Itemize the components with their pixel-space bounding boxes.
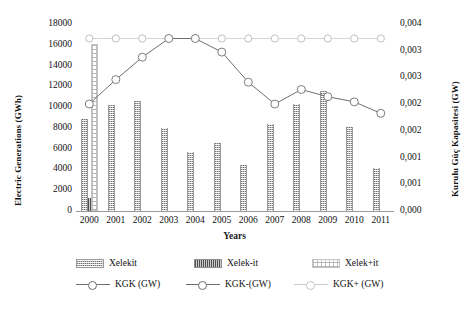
- y-axis-left-tick-label: 16000: [8, 40, 72, 50]
- legend-marker-icon: [198, 281, 207, 290]
- x-axis-tick-label: 2006: [235, 215, 262, 226]
- bar: [108, 105, 115, 211]
- bar: [320, 91, 327, 212]
- x-axis-tick-label: 2001: [103, 215, 130, 226]
- legend-marker-icon: [306, 281, 315, 290]
- y-axis-right-tick-label: 0,000: [400, 206, 421, 216]
- y-axis-right-tick-label: 0,002: [400, 99, 421, 109]
- x-axis-tick-label: 2008: [288, 215, 315, 226]
- x-axis-tick-label: 2004: [182, 215, 209, 226]
- x-axis-tick-label: 2010: [341, 215, 368, 226]
- y-axis-right-tick-label: 0,003: [400, 46, 421, 56]
- x-axis-tick-label: 2003: [156, 215, 183, 226]
- bar: [134, 101, 141, 211]
- legend-row-lines: KGK (GW)KGK-(GW)KGK+ (GW): [76, 278, 406, 296]
- bar: [346, 127, 353, 211]
- bar: [293, 104, 300, 211]
- legend-item-label: KGK+ (GW): [333, 279, 383, 289]
- legend-line-swatch: [76, 278, 110, 290]
- y-axis-left-tick-label: 6000: [8, 144, 72, 154]
- bar: [161, 128, 168, 211]
- x-axis-tick-label: 2009: [315, 215, 342, 226]
- legend-line-swatch: [186, 278, 220, 290]
- y-axis-left-tick-label: 10000: [8, 102, 72, 112]
- legend-item[interactable]: KGK (GW): [76, 278, 160, 290]
- x-axis-tick-label: 2011: [368, 215, 395, 226]
- legend-item[interactable]: Xelekit: [76, 258, 137, 268]
- legend-swatch-sC: [312, 259, 340, 268]
- legend-row-bars: XelekitXelek-itXelek+it: [76, 258, 406, 276]
- legend-item[interactable]: KGK-(GW): [186, 278, 271, 290]
- legend-item-label: Xelek+it: [345, 258, 378, 268]
- x-axis-tick-label: 2002: [129, 215, 156, 226]
- legend-item-label: KGK-(GW): [225, 279, 271, 289]
- legend-item[interactable]: KGK+ (GW): [294, 278, 383, 290]
- legend-item-label: KGK (GW): [115, 279, 160, 289]
- x-axis-tick-label: 2007: [262, 215, 289, 226]
- y-axis-left-tick-label: 2000: [8, 185, 72, 195]
- bar: [240, 165, 247, 211]
- y-axis-right-tick-label: 0,004: [400, 19, 421, 29]
- y-axis-right-tick-label: 0,001: [400, 179, 421, 189]
- legend-line-swatch: [294, 278, 328, 290]
- x-axis-tick-labels: 2000200120022003200420052006200720082009…: [76, 215, 394, 229]
- legend-swatch-sB: [194, 259, 222, 268]
- y-axis-left-tick-label: 8000: [8, 123, 72, 133]
- x-axis-tick-label: 2005: [209, 215, 236, 226]
- x-axis-line: [76, 211, 394, 212]
- chart-legend: XelekitXelek-itXelek+it KGK (GW)KGK-(GW)…: [76, 258, 406, 306]
- y-axis-right-tick-label: 0,002: [400, 126, 421, 136]
- legend-marker-icon: [88, 281, 97, 290]
- legend-item[interactable]: Xelek-it: [194, 258, 258, 268]
- legend-swatch-sA: [76, 259, 104, 268]
- bar: [214, 143, 221, 211]
- legend-item[interactable]: Xelek+it: [312, 258, 378, 268]
- y-axis-right-tick-label: 0,001: [400, 153, 421, 163]
- chart-figure: Electric Generations (GWh) Kurulu Güç Ka…: [0, 0, 469, 314]
- y-axis-left-tick-label: 4000: [8, 164, 72, 174]
- y-axis-left-tick-label: 12000: [8, 81, 72, 91]
- plot-area: [76, 24, 394, 211]
- bar: [187, 152, 194, 211]
- bar: [91, 44, 98, 211]
- y-axis-left-ticks: 0200040006000800010000120001400016000180…: [0, 0, 72, 314]
- bar: [373, 168, 380, 211]
- y-axis-left-tick-label: 18000: [8, 19, 72, 29]
- y-axis-left-tick-label: 0: [8, 206, 72, 216]
- y-axis-right-title: Kurulu Güç Kapasitesi (GW): [450, 81, 460, 197]
- legend-item-label: Xelek-it: [227, 258, 258, 268]
- bar: [267, 124, 274, 211]
- x-axis-tick-label: 2000: [76, 215, 103, 226]
- y-axis-left-tick-label: 14000: [8, 61, 72, 71]
- y-axis-right-tick-label: 0,003: [400, 72, 421, 82]
- y-axis-right-ticks: 0,0000,0010,0010,0020,0020,0030,0030,004: [400, 0, 446, 314]
- legend-item-label: Xelekit: [109, 258, 137, 268]
